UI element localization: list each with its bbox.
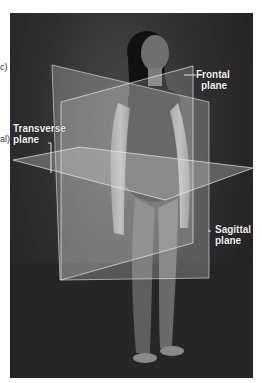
sagittal-plane-label: Sagittal plane — [215, 224, 251, 246]
transverse-plane-label: Transverse plane — [13, 123, 66, 145]
clipped-text-bottom: al) — [0, 135, 10, 144]
anatomy-photo: Frontal plane Transverse plane Sagittal … — [10, 13, 253, 378]
clipped-text-top: c) — [0, 63, 8, 72]
planes-illustration — [10, 13, 253, 378]
frontal-plane-label: Frontal plane — [196, 69, 230, 91]
transverse-plane — [13, 147, 253, 200]
